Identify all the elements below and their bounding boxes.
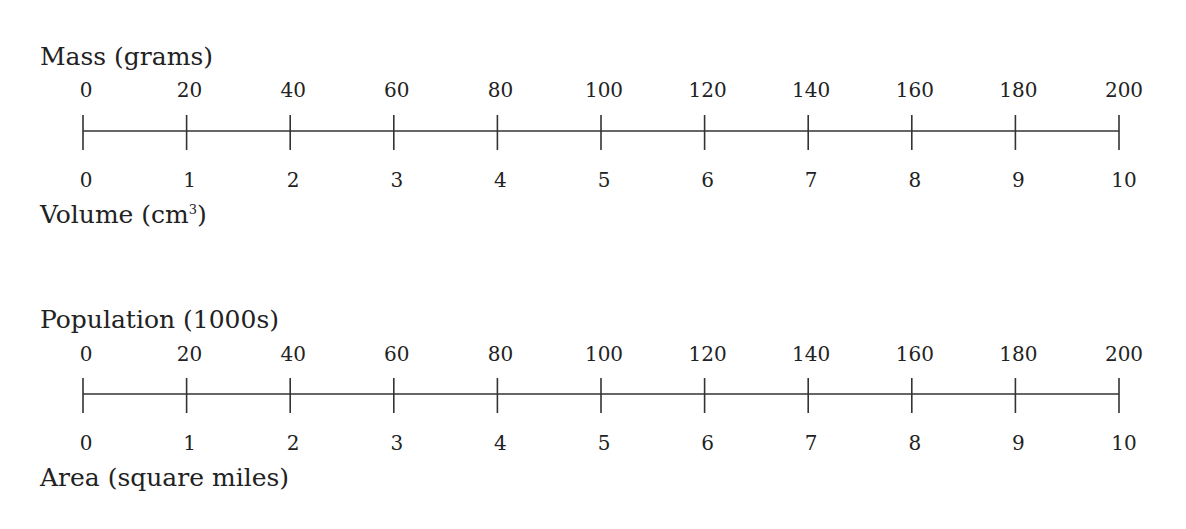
- top-tick-label: 60: [384, 342, 409, 366]
- bottom-tick-label: 3: [390, 431, 403, 455]
- bottom-tick-label: 2: [287, 431, 300, 455]
- area-axis-title: Area (square miles): [40, 463, 289, 492]
- top-tick-label: 100: [585, 342, 623, 366]
- top-tick-label: 80: [488, 342, 513, 366]
- bottom-tick-label: 5: [598, 431, 611, 455]
- bottom-tick-label: 10: [1111, 431, 1136, 455]
- bottom-tick-label: 6: [701, 431, 714, 455]
- bottom-tick-label: 1: [183, 431, 196, 455]
- bottom-tick-label: 9: [1012, 431, 1025, 455]
- bottom-tick-label: 8: [908, 431, 921, 455]
- number-line-2-graphic: [0, 0, 1186, 529]
- top-tick-label: 200: [1105, 342, 1143, 366]
- top-tick-label: 120: [689, 342, 727, 366]
- top-tick-label: 20: [177, 342, 202, 366]
- bottom-tick-label: 7: [805, 431, 818, 455]
- top-tick-label: 180: [999, 342, 1037, 366]
- bottom-tick-label: 4: [494, 431, 507, 455]
- top-tick-label: 40: [280, 342, 305, 366]
- bottom-tick-label: 0: [80, 431, 93, 455]
- top-tick-label: 160: [896, 342, 934, 366]
- top-tick-label: 0: [80, 342, 93, 366]
- top-tick-label: 140: [792, 342, 830, 366]
